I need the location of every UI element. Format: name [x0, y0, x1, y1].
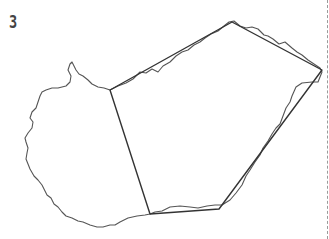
freehand-outline: [25, 21, 322, 227]
convex-hull-polygon: [110, 22, 322, 214]
panel-divider-dashed-line: [327, 0, 328, 239]
shape-drawing: [0, 0, 329, 239]
